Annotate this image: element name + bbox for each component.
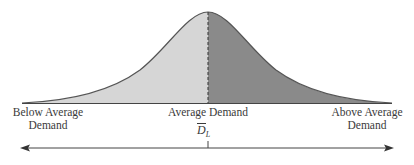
- overbar: [197, 123, 206, 124]
- above-average-line1: Above Average: [320, 106, 414, 119]
- below-average-label: Below Average Demand: [0, 106, 96, 132]
- mean-symbol: D: [197, 123, 206, 137]
- normal-curve-diagram: [0, 0, 414, 165]
- mean-demand-symbol: DL: [197, 123, 210, 139]
- below-average-line2: Demand: [0, 119, 96, 132]
- mean-subscript: L: [206, 130, 210, 139]
- average-demand-label: Average Demand: [148, 106, 268, 119]
- above-average-label: Above Average Demand: [320, 106, 414, 132]
- below-average-line1: Below Average: [0, 106, 96, 119]
- below-average-region: [22, 12, 208, 103]
- above-average-region: [208, 12, 392, 103]
- above-average-line2: Demand: [320, 119, 414, 132]
